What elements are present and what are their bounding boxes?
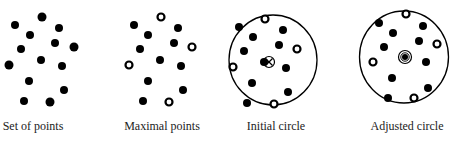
- panel-adjusted-circle: [360, 11, 449, 104]
- panel-set-of-points: [5, 13, 79, 107]
- caption-set-of-points: Set of points: [3, 119, 64, 134]
- adjusted-center-marker: [399, 51, 412, 64]
- caption-adjusted-circle: Adjusted circle: [371, 119, 444, 134]
- caption-initial-circle: Initial circle: [247, 119, 305, 134]
- panel-initial-circle: [229, 15, 317, 108]
- caption-maximal-points: Maximal points: [124, 119, 200, 134]
- panel-maximal-points: [126, 14, 196, 106]
